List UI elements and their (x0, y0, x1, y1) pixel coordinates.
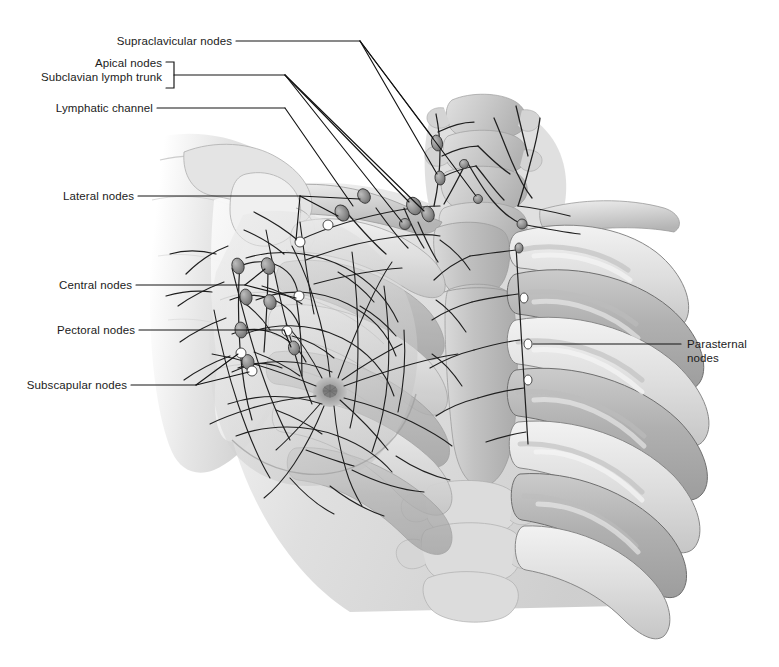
leader-supraclavicular-b (360, 41, 437, 174)
node-subscapular-1 (236, 348, 246, 358)
leader-apical-bracket (166, 62, 174, 88)
sternum-body (445, 284, 517, 486)
node-parasternal-1 (520, 293, 528, 303)
node-supraclavicular-3 (460, 160, 469, 169)
node-lateral-2 (323, 220, 333, 230)
node-supraclavicular-4 (474, 195, 483, 204)
lymphatic-drainage-illustration (0, 0, 779, 667)
anatomical-figure: Supraclavicular nodes Apical nodes Subcl… (0, 0, 779, 667)
node-parasternal-3 (524, 375, 532, 385)
node-parasternal-4 (515, 243, 523, 253)
node-pectoral-2 (282, 326, 292, 336)
node-supraclavicular-5 (517, 219, 527, 229)
node-pectoral-1 (294, 291, 304, 301)
node-subscapular-2 (247, 366, 257, 376)
node-parasternal-2 (524, 339, 532, 349)
